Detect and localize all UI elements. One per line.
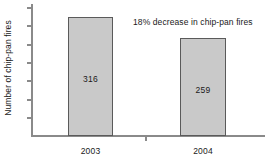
y-axis-tick [27, 7, 32, 9]
bar-chart: Number of chip-pan fires 316 259 2003 20… [0, 0, 267, 160]
y-axis-tick [27, 80, 32, 82]
x-axis-label-2004: 2004 [180, 146, 226, 156]
bar-value-2004: 259 [181, 85, 225, 95]
bar-2004: 259 [180, 38, 226, 136]
y-axis-tick [27, 62, 32, 64]
chart-annotation: 18% decrease in chip-pan fires [133, 17, 253, 27]
x-axis-label-2003: 2003 [68, 146, 113, 156]
y-axis-tick [27, 117, 32, 119]
bar-value-2003: 316 [69, 74, 112, 84]
y-axis-tick [27, 44, 32, 46]
y-axis-tick [27, 99, 32, 101]
y-axis-tick [27, 25, 32, 27]
x-axis-line [31, 135, 265, 137]
y-axis-title: Number of chip-pan fires [0, 0, 16, 148]
x-axis-tick [145, 136, 147, 141]
bar-2003: 316 [68, 17, 113, 136]
